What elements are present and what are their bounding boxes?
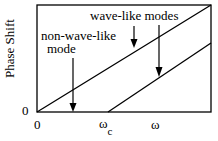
wave-like-modes-label: wave-like modes	[90, 9, 178, 22]
omega-c-subscript: c	[108, 125, 113, 137]
y-tick-zero: 0	[22, 104, 29, 117]
wave-arrow-2	[156, 25, 163, 77]
non-wave-arrow	[70, 58, 77, 112]
x-tick-omega-c: ωc	[99, 117, 112, 135]
x-tick-zero: 0	[34, 118, 41, 131]
y-axis-label: Phase Shift	[2, 19, 18, 78]
non-wave-label-line2: mode	[47, 42, 76, 55]
x-axis-label: ω	[151, 118, 160, 131]
wave-arrow-1	[131, 26, 138, 48]
omega-symbol: ω	[99, 116, 108, 131]
